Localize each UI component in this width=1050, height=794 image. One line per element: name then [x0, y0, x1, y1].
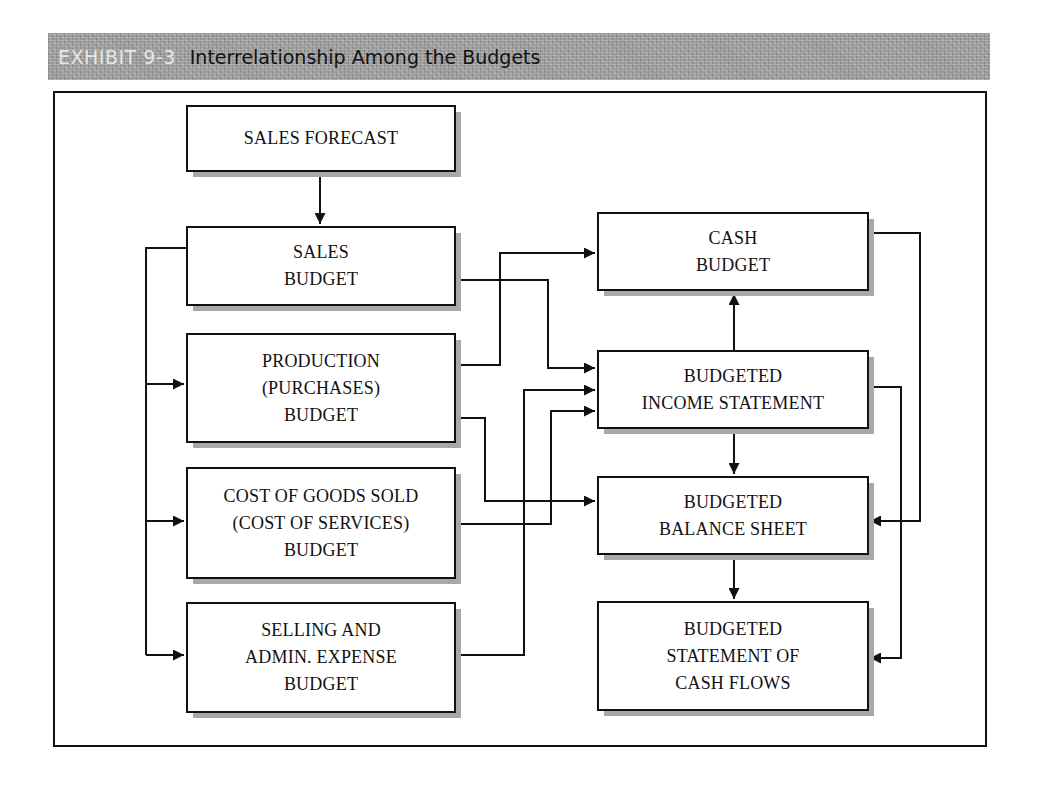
box-line: BUDGET: [696, 252, 770, 279]
production-budget-box: PRODUCTION (PURCHASES) BUDGET: [186, 333, 456, 443]
box-line: BUDGETED: [684, 489, 783, 516]
box-line: BUDGET: [284, 266, 358, 293]
box-line: (COST OF SERVICES): [233, 510, 410, 537]
box-line: SALES FORECAST: [244, 125, 398, 152]
cogs-budget-box: COST OF GOODS SOLD (COST OF SERVICES) BU…: [186, 467, 456, 579]
budgeted-income-statement-box: BUDGETED INCOME STATEMENT: [597, 350, 869, 429]
box-line: BALANCE SHEET: [659, 516, 807, 543]
cash-budget-box: CASH BUDGET: [597, 212, 869, 291]
box-line: SELLING AND: [261, 617, 381, 644]
box-line: BUDGETED: [684, 616, 783, 643]
box-line: CASH FLOWS: [675, 670, 791, 697]
box-line: CASH: [709, 225, 758, 252]
budgeted-balance-sheet-box: BUDGETED BALANCE SHEET: [597, 476, 869, 555]
box-line: BUDGET: [284, 402, 358, 429]
sales-budget-box: SALES BUDGET: [186, 226, 456, 306]
box-line: ADMIN. EXPENSE: [245, 644, 397, 671]
selling-admin-budget-box: SELLING AND ADMIN. EXPENSE BUDGET: [186, 602, 456, 713]
connector-lines: [0, 0, 1050, 794]
budgeted-cash-flows-box: BUDGETED STATEMENT OF CASH FLOWS: [597, 601, 869, 711]
box-line: (PURCHASES): [262, 375, 380, 402]
box-line: COST OF GOODS SOLD: [224, 483, 419, 510]
box-line: BUDGET: [284, 671, 358, 698]
box-line: PRODUCTION: [262, 348, 380, 375]
sales-forecast-box: SALES FORECAST: [186, 105, 456, 172]
box-line: SALES: [293, 239, 349, 266]
box-line: STATEMENT OF: [666, 643, 799, 670]
box-line: INCOME STATEMENT: [642, 390, 824, 417]
box-line: BUDGETED: [684, 363, 783, 390]
box-line: BUDGET: [284, 537, 358, 564]
